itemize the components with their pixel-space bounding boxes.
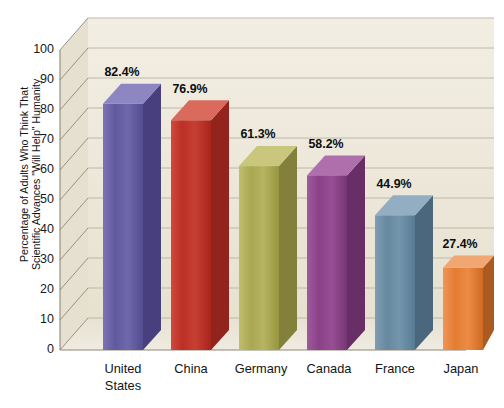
bar-canada[interactable] [307,155,365,350]
y-tick-100: 100 [33,42,54,56]
x-label-germany: Germany [235,361,288,376]
y-axis-title-line1: Percentage of Adults Who Think That [18,87,30,262]
bar-side-canada [347,155,365,350]
bar-front-japan [443,268,483,350]
bar-germany[interactable] [239,146,297,350]
bar-value-united-states: 82.4% [104,65,139,79]
bar-france[interactable] [375,195,433,350]
bar-side-france [415,195,433,350]
y-tick-80: 80 [40,102,54,116]
bar-front-canada [307,175,347,350]
bar-side-japan [483,256,494,350]
y-axis-title-line2: Scientific Advances "Will Help" Humanity [30,78,42,270]
bar-united-states[interactable] [103,84,161,350]
bar-front-france [375,215,415,350]
y-tick-20: 20 [40,282,54,296]
chart-canvas: 0 10 20 30 40 50 60 70 80 90 100 Percent… [0,0,504,408]
bar-chart: 0 10 20 30 40 50 60 70 80 90 100 Percent… [0,0,504,408]
bar-front-united-states [103,104,143,350]
y-tick-90: 90 [40,72,54,86]
y-tick-70: 70 [40,132,54,146]
bar-front-china [171,120,211,350]
y-axis-title: Percentage of Adults Who Think That Scie… [18,78,42,270]
x-label-france: France [375,361,415,376]
bar-value-france: 44.9% [376,177,411,191]
y-tick-10: 10 [40,312,54,326]
y-tick-40: 40 [40,222,54,236]
bar-value-germany: 61.3% [240,127,275,141]
x-axis-labels: United States China Germany Canada Franc… [105,361,479,393]
bar-china[interactable] [171,100,229,350]
y-tick-50: 50 [40,192,54,206]
bar-japan[interactable] [443,256,494,350]
x-label-china: China [174,361,208,376]
bar-side-united-states [143,84,161,350]
x-label-japan: Japan [444,361,479,376]
bar-value-japan: 27.4% [442,237,477,251]
bar-value-china: 76.9% [172,82,207,96]
y-tick-60: 60 [40,162,54,176]
x-label-united-states-line2: States [105,378,141,393]
y-tick-0: 0 [47,342,54,356]
bar-front-germany [239,166,279,350]
bar-side-china [211,100,229,350]
bar-side-germany [279,146,297,350]
bar-value-canada: 58.2% [308,137,343,151]
x-label-canada: Canada [307,361,353,376]
x-label-united-states-line1: United [105,361,142,376]
y-tick-30: 30 [40,252,54,266]
